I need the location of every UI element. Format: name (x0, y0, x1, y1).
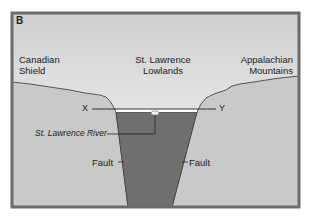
label-line: St. Lawrence (118, 54, 208, 65)
label-line: Lowlands (118, 65, 208, 76)
label-x: X (82, 103, 88, 114)
label-fault-left: Fault (92, 157, 113, 168)
rift-valley-cross-section (0, 0, 309, 220)
label-line: Canadian (19, 54, 60, 65)
label-canadian-shield: Canadian Shield (19, 54, 60, 76)
label-appalachian-mountains: Appalachian Mountains (200, 54, 293, 76)
label-y: Y (219, 103, 225, 114)
label-st-lawrence-river: St. Lawrence River (35, 128, 107, 139)
label-st-lawrence-lowlands: St. Lawrence Lowlands (118, 54, 208, 76)
label-fault-right: Fault (189, 157, 210, 168)
label-line: Shield (19, 65, 60, 76)
label-line: Appalachian (200, 54, 293, 65)
river (151, 111, 159, 115)
label-line: Mountains (200, 65, 293, 76)
panel-label: B (16, 15, 23, 26)
